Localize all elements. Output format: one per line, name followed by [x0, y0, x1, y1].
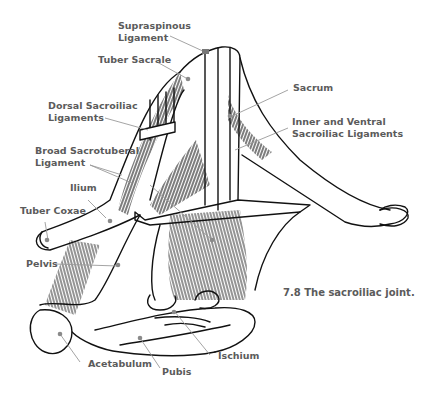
label-pelvis: Pelvis [26, 258, 58, 270]
label-tuber-coxae: Tuber Coxae [20, 205, 86, 217]
label-inner-ventral-sacroiliac-ligaments: Inner and Ventral Sacroiliac Ligaments [292, 116, 403, 140]
label-ilium: Ilium [70, 182, 97, 194]
label-ischium: Ischium [218, 350, 260, 362]
label-sacrum: Sacrum [293, 82, 333, 94]
label-acetabulum: Acetabulum [88, 358, 152, 370]
label-line: Supraspinous [118, 20, 191, 32]
label-line: Sacroiliac Ligaments [292, 128, 403, 140]
label-line: Dorsal Sacroiliac [48, 100, 138, 112]
label-dorsal-sacroiliac-ligaments: Dorsal Sacroiliac Ligaments [48, 100, 138, 124]
label-line: Ligaments [48, 112, 138, 124]
figure-caption: 7.8 The sacroiliac joint. [283, 287, 415, 298]
label-pubis: Pubis [162, 366, 191, 378]
label-tuber-sacrale: Tuber Sacrale [98, 54, 171, 66]
sacroiliac-diagram: Supraspinous Ligament Tuber Sacrale Dors… [0, 0, 430, 394]
anatomy-drawing [0, 0, 430, 394]
label-line: Ligament [35, 157, 139, 169]
label-line: Inner and Ventral [292, 116, 403, 128]
label-broad-sacrotuberal-ligament: Broad Sacrotuberal Ligament [35, 145, 139, 169]
label-line: Ligament [118, 32, 191, 44]
label-line: Broad Sacrotuberal [35, 145, 139, 157]
label-supraspinous-ligament: Supraspinous Ligament [118, 20, 191, 44]
